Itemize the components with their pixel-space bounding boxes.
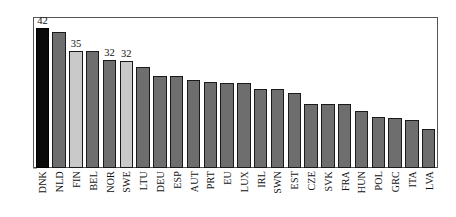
bar-slot: 42	[36, 18, 49, 168]
bar-slot	[52, 18, 65, 168]
bar-esp[interactable]	[170, 76, 183, 168]
bar-slot	[338, 18, 351, 168]
x-axis-label-swe: SWE	[121, 171, 132, 193]
bar-slot	[372, 18, 385, 168]
x-axis-label-esp: ESP	[172, 171, 183, 189]
x-axis-label-irl: IRL	[256, 171, 267, 188]
bar-aut[interactable]	[187, 80, 200, 168]
bar-chart: 051015202530354045 42353232 DNKNLDFINBEL…	[0, 0, 456, 217]
y-axis: 051015202530354045	[0, 0, 33, 168]
bar-slot: 32	[120, 18, 133, 168]
bar-slot	[271, 18, 284, 168]
bar-slot	[220, 18, 233, 168]
bar-cze[interactable]	[304, 104, 317, 168]
x-axis-label-swn: SWN	[272, 171, 283, 194]
bar-prt[interactable]	[204, 82, 217, 168]
x-axis-label-lva: LVA	[424, 171, 435, 190]
bar-slot	[170, 18, 183, 168]
bar-slot: 32	[103, 18, 116, 168]
x-axis-label-ltu: LTU	[138, 171, 149, 190]
bar-swn[interactable]	[271, 89, 284, 168]
bar-ita[interactable]	[405, 120, 418, 168]
bar-value-label-fin: 35	[71, 38, 82, 49]
x-axis-label-nor: NOR	[105, 171, 116, 193]
bar-irl[interactable]	[254, 89, 267, 168]
x-axis-label-deu: DEU	[155, 171, 166, 192]
x-axis-label-est: EST	[289, 171, 300, 189]
bar-slot	[204, 18, 217, 168]
bar-slot	[254, 18, 267, 168]
x-axis-label-fra: FRA	[340, 171, 351, 191]
bar-nld[interactable]	[52, 32, 65, 168]
bar-grc[interactable]	[388, 118, 401, 168]
bars-container: 42353232	[34, 18, 437, 168]
x-axis-label-hun: HUN	[356, 171, 367, 193]
bar-slot: 35	[69, 18, 82, 168]
bar-slot	[136, 18, 149, 168]
x-axis-label-grc: GRC	[390, 171, 401, 192]
bar-slot	[321, 18, 334, 168]
x-axis-label-eu: EU	[222, 171, 233, 185]
x-axis-label-lux: LUX	[239, 171, 250, 192]
bar-slot	[422, 18, 435, 168]
x-axis-label-bel: BEL	[88, 171, 99, 191]
bar-dnk[interactable]	[36, 28, 49, 168]
bar-eu[interactable]	[220, 83, 233, 168]
x-axis-label-fin: FIN	[71, 171, 82, 188]
x-axis-label-svk: SVK	[323, 171, 334, 192]
bar-svk[interactable]	[321, 104, 334, 168]
bar-nor[interactable]	[103, 60, 116, 168]
bar-slot	[288, 18, 301, 168]
bar-pol[interactable]	[372, 117, 385, 168]
bar-lux[interactable]	[237, 83, 250, 168]
bar-slot	[237, 18, 250, 168]
x-axis-label-dnk: DNK	[37, 171, 48, 193]
x-axis-label-aut: AUT	[189, 171, 200, 192]
bar-hun[interactable]	[355, 111, 368, 168]
bar-est[interactable]	[288, 93, 301, 168]
bar-value-label-dnk: 42	[37, 15, 48, 26]
x-axis-label-cze: CZE	[306, 171, 317, 191]
bar-value-label-swe: 32	[121, 48, 132, 59]
bar-value-label-nor: 32	[104, 47, 115, 58]
bar-slot	[304, 18, 317, 168]
x-axis-label-nld: NLD	[54, 171, 65, 192]
x-axis-label-ita: ITA	[407, 171, 418, 187]
bar-slot	[405, 18, 418, 168]
bar-slot	[187, 18, 200, 168]
bar-lva[interactable]	[422, 129, 435, 168]
x-axis-label-pol: POL	[373, 171, 384, 191]
bar-deu[interactable]	[153, 76, 166, 168]
bar-swe[interactable]	[120, 61, 133, 168]
bar-fin[interactable]	[69, 51, 82, 168]
bar-slot	[388, 18, 401, 168]
x-axis-label-prt: PRT	[205, 171, 216, 189]
bar-slot	[355, 18, 368, 168]
bar-fra[interactable]	[338, 104, 351, 168]
bar-bel[interactable]	[86, 51, 99, 168]
bar-ltu[interactable]	[136, 67, 149, 168]
bar-slot	[86, 18, 99, 168]
bar-slot	[153, 18, 166, 168]
x-axis-labels: DNKNLDFINBELNORSWELTUDEUESPAUTPRTEULUXIR…	[34, 169, 437, 217]
